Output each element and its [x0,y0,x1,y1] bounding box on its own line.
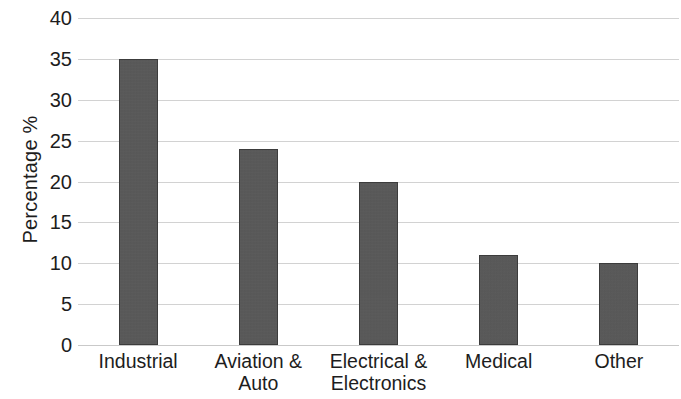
x-tick-label-line: Medical [439,350,559,372]
y-tick-label: 40 [26,8,72,28]
bar-chart: Percentage % 40 35 30 25 20 15 10 5 0 In… [0,0,681,399]
y-tick-label: 25 [26,131,72,151]
x-tick-label: Aviation &Auto [198,350,318,394]
bar [119,59,158,345]
x-tick-label: Medical [439,350,559,372]
bar [239,149,278,345]
x-tick-label-line: Electrical & [318,350,438,372]
y-axis-tick-labels: 40 35 30 25 20 15 10 5 0 [20,0,72,399]
x-tick-label: Industrial [78,350,198,372]
bars-layer [78,18,679,345]
x-tick-label-line: Electronics [318,372,438,394]
x-axis-tick-labels: IndustrialAviation &AutoElectrical &Elec… [78,350,679,399]
x-tick-label: Electrical &Electronics [318,350,438,394]
x-tick-label: Other [559,350,679,372]
y-tick-label: 0 [26,335,72,355]
y-tick-label: 30 [26,90,72,110]
y-tick-label: 35 [26,49,72,69]
x-tick-label-line: Other [559,350,679,372]
x-tick-label-line: Aviation & [198,350,318,372]
y-tick-label: 20 [26,172,72,192]
bar [479,255,518,345]
plot-area [78,18,679,345]
gridline [78,345,679,346]
y-tick-label: 5 [26,294,72,314]
bar [359,182,398,346]
y-tick-label: 10 [26,253,72,273]
bar [599,263,638,345]
x-tick-label-line: Industrial [78,350,198,372]
y-tick-label: 15 [26,212,72,232]
x-tick-label-line: Auto [198,372,318,394]
